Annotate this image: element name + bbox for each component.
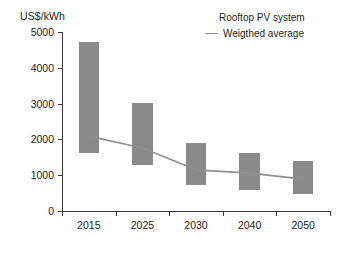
y-axis-tick-label: 5000	[31, 26, 54, 39]
x-axis-tick-label: 2025	[131, 219, 154, 232]
x-axis-tick	[330, 211, 331, 216]
y-axis-tick: 1000	[58, 175, 62, 176]
y-axis-tick: 4000	[58, 68, 62, 69]
x-axis-tick	[223, 211, 224, 216]
y-axis-tick-label: 0	[48, 205, 54, 218]
y-axis-line	[62, 32, 63, 211]
x-axis-tick	[169, 211, 170, 216]
y-axis-tick-label: 4000	[31, 62, 54, 75]
x-axis-tick-label: 2030	[184, 219, 207, 232]
x-axis-tick	[116, 211, 117, 216]
x-axis-line	[62, 211, 330, 212]
x-axis-tick-label: 2050	[292, 219, 315, 232]
y-axis-tick: 2000	[58, 139, 62, 140]
chart-figure: US$/kWh Rooftop PV system Weigthed avera…	[0, 0, 341, 257]
range-bar	[132, 103, 152, 165]
x-axis-tick-label: 2015	[77, 219, 100, 232]
x-axis-tick-label: 2040	[238, 219, 261, 232]
y-axis-tick-label: 2000	[31, 133, 54, 146]
y-axis-tick: 5000	[58, 32, 62, 33]
y-axis-title: US$/kWh	[20, 10, 65, 22]
range-bar	[79, 42, 99, 153]
range-bar	[186, 143, 206, 185]
y-axis-tick: 3000	[58, 104, 62, 105]
range-bar	[239, 153, 259, 190]
x-axis-tick	[62, 211, 63, 216]
plot-area: 010002000300040005000 201520252030204020…	[62, 32, 330, 211]
legend-title: Rooftop PV system	[205, 11, 337, 24]
x-axis-tick	[276, 211, 277, 216]
range-bar	[293, 161, 313, 194]
y-axis-tick-label: 1000	[31, 169, 54, 182]
y-axis-tick-label: 3000	[31, 98, 54, 111]
